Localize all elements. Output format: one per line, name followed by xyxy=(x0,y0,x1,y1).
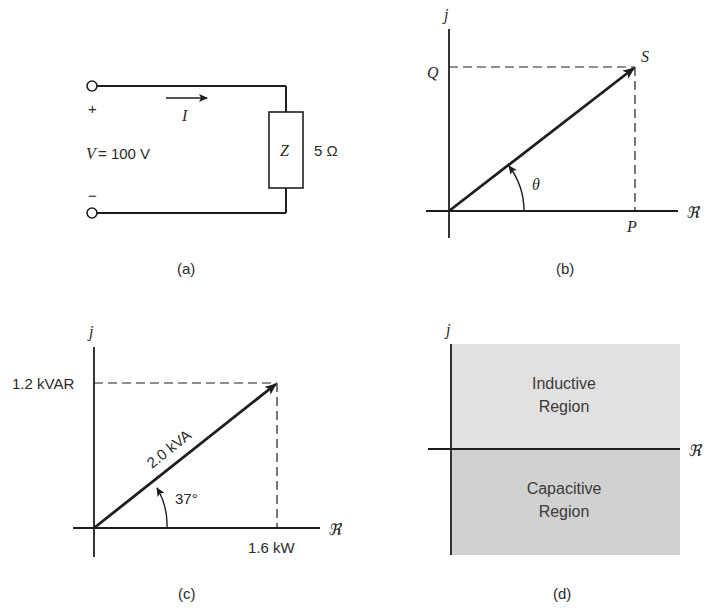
impedance-symbol: Z xyxy=(280,142,290,159)
current-label: I xyxy=(181,107,188,124)
kva-label: 2.0 kVA xyxy=(143,426,194,471)
capacitive-label-line2: Region xyxy=(539,503,590,520)
imag-axis-label: j xyxy=(444,321,451,339)
real-axis-label: ℜ xyxy=(328,521,343,538)
impedance-value: 5 Ω xyxy=(314,142,338,159)
minus-sign: − xyxy=(88,187,97,204)
theta-arc-icon xyxy=(509,166,524,211)
panel-a-circuit: + − I V = 100 V Z 5 Ω (a) xyxy=(86,81,338,277)
p-label: P xyxy=(626,218,637,235)
terminal-positive-icon xyxy=(87,81,97,91)
caption-a: (a) xyxy=(177,260,195,277)
angle-arc-icon xyxy=(157,488,167,528)
inductive-region xyxy=(451,344,680,449)
caption-b: (b) xyxy=(556,260,574,277)
q-label: Q xyxy=(427,64,439,81)
capacitive-label-line1: Capacitive xyxy=(527,480,602,497)
kw-label: 1.6 kW xyxy=(248,539,296,556)
inductive-label-line2: Region xyxy=(539,398,590,415)
theta-label: θ xyxy=(532,176,540,193)
voltage-symbol: V xyxy=(86,145,98,162)
plus-sign: + xyxy=(88,100,97,117)
terminal-negative-icon xyxy=(87,208,97,218)
panel-d-regions: j ℜ Inductive Region Capacitive Region (… xyxy=(428,321,703,602)
capacitive-region xyxy=(451,449,680,555)
caption-c: (c) xyxy=(178,585,196,602)
real-axis-label: ℜ xyxy=(688,442,703,459)
kvar-label: 1.2 kVAR xyxy=(12,375,74,392)
real-axis-label: ℜ xyxy=(686,204,701,221)
power-diagrams: + − I V = 100 V Z 5 Ω (a) j ℜ Q S P θ (b… xyxy=(0,0,714,610)
imag-axis-label: j xyxy=(87,323,94,341)
caption-d: (d) xyxy=(553,585,571,602)
s-vector-arrow-icon xyxy=(449,68,634,211)
voltage-value: = 100 V xyxy=(98,145,150,162)
angle-label: 37° xyxy=(175,490,198,507)
inductive-label-line1: Inductive xyxy=(532,375,596,392)
s-label: S xyxy=(641,48,649,65)
imag-axis-label: j xyxy=(442,6,449,24)
panel-b-power-triangle: j ℜ Q S P θ (b) xyxy=(426,6,701,277)
panel-c-numeric-triangle: j ℜ 1.2 kVAR 1.6 kW 37° 2.0 kVA (c) xyxy=(12,323,343,602)
